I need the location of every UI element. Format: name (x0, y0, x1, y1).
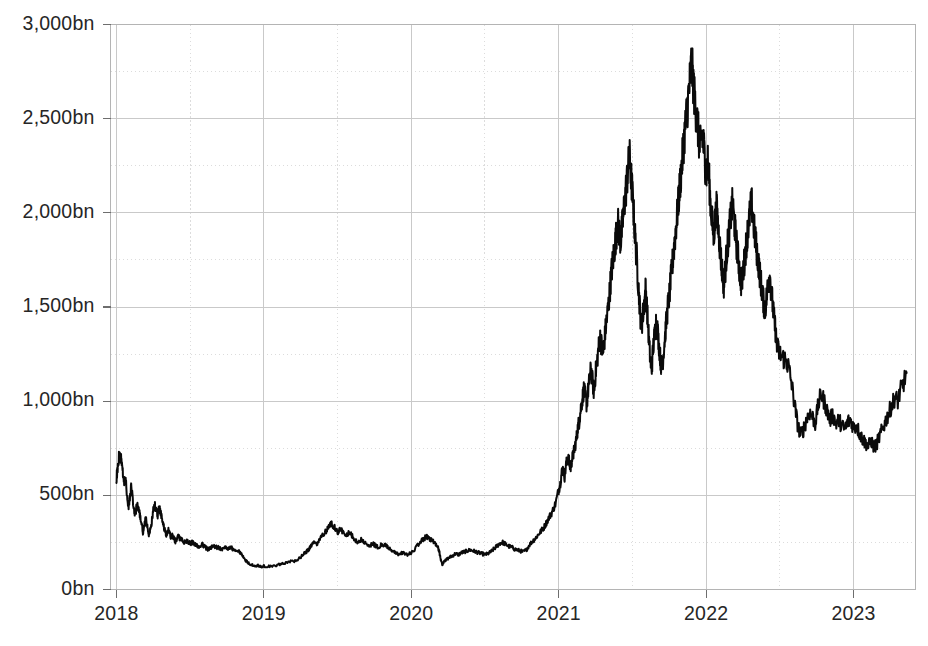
x-axis-label: 2018 (94, 602, 138, 624)
x-axis-label: 2022 (684, 602, 728, 624)
x-axis-label: 2021 (537, 602, 581, 624)
market-cap-chart: 0bn500bn1,000bn1,500bn2,000bn2,500bn3,00… (0, 0, 928, 646)
y-axis-label: 3,000bn (23, 12, 95, 34)
y-axis-label: 1,000bn (23, 388, 95, 410)
x-axis-label: 2020 (389, 602, 433, 624)
y-axis-label: 1,500bn (23, 294, 95, 316)
y-axis-label: 0bn (61, 577, 94, 599)
y-axis-label: 2,000bn (23, 200, 95, 222)
y-axis-label: 500bn (39, 482, 94, 504)
x-axis-label: 2019 (242, 602, 286, 624)
y-axis-label: 2,500bn (23, 106, 95, 128)
x-axis-label: 2023 (831, 602, 875, 624)
chart-canvas: 0bn500bn1,000bn1,500bn2,000bn2,500bn3,00… (0, 0, 928, 646)
chart-background (0, 0, 928, 646)
